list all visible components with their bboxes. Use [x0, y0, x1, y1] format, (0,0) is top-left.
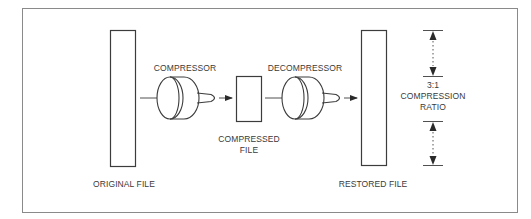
compression-diagram: COMPRESSOR DECOMPRESSOR COMPRESSED FILE …	[0, 0, 531, 219]
restored-file-box	[362, 31, 387, 166]
original-file-label: ORIGINAL FILE	[84, 179, 164, 190]
restored-file-label: RESTORED FILE	[333, 179, 413, 190]
arrow-down-icon	[430, 67, 437, 76]
ratio-dimension-bottom	[423, 122, 443, 166]
original-file-box	[111, 31, 136, 167]
arrow-down-icon	[430, 156, 437, 165]
decompressor-icon	[282, 77, 340, 119]
compressed-file-label: COMPRESSED FILE	[209, 134, 289, 156]
ratio-dimension-top	[423, 31, 443, 77]
arrow-up-icon	[430, 122, 437, 131]
decompressor-label: DECOMPRESSOR	[265, 63, 345, 74]
compressor-label: COMPRESSOR	[150, 63, 220, 74]
compression-ratio-label: COMPRESSION RATIO	[393, 91, 473, 113]
arrow-up-icon	[430, 31, 437, 40]
compressor-icon	[157, 77, 215, 119]
compression-ratio-value: 3:1	[403, 80, 463, 91]
compressed-file-box	[237, 77, 262, 122]
